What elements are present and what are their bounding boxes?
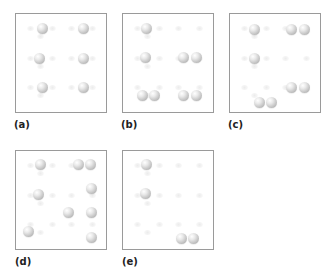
sphere-atom <box>176 233 187 244</box>
panel-b <box>122 13 214 113</box>
lattice-site-marker <box>37 93 44 98</box>
sphere-atom <box>254 97 265 108</box>
lattice-site-marker <box>49 193 56 198</box>
lattice-site-marker <box>134 26 141 31</box>
sphere-atom <box>141 159 152 170</box>
lattice-site-marker <box>196 26 203 31</box>
sphere-atom <box>86 207 97 218</box>
panel-label-e: (e) <box>122 256 138 268</box>
sphere-atom <box>191 90 202 101</box>
panel-label-c: (c) <box>228 119 243 131</box>
lattice-site-marker <box>68 56 75 61</box>
lattice-site-marker <box>196 85 203 90</box>
lattice-site-marker <box>241 56 248 61</box>
lattice-site-marker <box>241 26 248 31</box>
sphere-atom <box>299 24 310 35</box>
lattice-site-marker <box>134 163 141 168</box>
lattice-site-marker <box>27 56 34 61</box>
sphere-atom <box>63 207 74 218</box>
sphere-atom <box>140 52 151 63</box>
lattice-site-marker <box>156 193 163 198</box>
lattice-site-marker <box>37 230 44 235</box>
lattice-site-marker <box>282 56 289 61</box>
sphere-atom <box>37 23 48 34</box>
lattice-site-marker <box>68 26 75 31</box>
sphere-atom <box>249 24 260 35</box>
sphere-atom <box>149 90 160 101</box>
lattice-site-marker <box>89 26 96 31</box>
sphere-atom <box>37 82 48 93</box>
sphere-atom <box>78 82 89 93</box>
panel-label-b: (b) <box>121 119 137 131</box>
lattice-site-marker <box>49 56 56 61</box>
lattice-site-marker <box>37 171 44 176</box>
lattice-site-marker <box>89 56 96 61</box>
sphere-atom <box>249 53 260 64</box>
lattice-site-marker <box>263 85 270 90</box>
sphere-atom <box>286 82 297 93</box>
lattice-site-marker <box>49 26 56 31</box>
lattice-site-marker <box>144 230 151 235</box>
sphere-atom <box>266 97 277 108</box>
lattice-site-marker <box>175 163 182 168</box>
panel-c <box>229 13 321 113</box>
sphere-atom <box>78 23 89 34</box>
lattice-site-marker <box>144 201 151 206</box>
lattice-site-marker <box>27 26 34 31</box>
lattice-site-marker <box>175 85 182 90</box>
lattice-site-marker <box>156 222 163 227</box>
sphere-atom <box>188 233 199 244</box>
lattice-site-marker <box>144 34 151 39</box>
sphere-atom <box>141 23 152 34</box>
lattice-site-marker <box>175 26 182 31</box>
sphere-atom <box>191 52 202 63</box>
sphere-atom <box>178 90 189 101</box>
panel-label-a: (a) <box>14 119 30 131</box>
lattice-site-marker <box>37 34 44 39</box>
sphere-atom <box>178 52 189 63</box>
lattice-site-marker <box>49 85 56 90</box>
lattice-site-marker <box>134 85 141 90</box>
lattice-site-marker <box>49 222 56 227</box>
lattice-site-marker <box>37 201 44 206</box>
lattice-site-marker <box>89 222 96 227</box>
sphere-atom <box>86 183 97 194</box>
lattice-site-marker <box>156 56 163 61</box>
lattice-site-marker <box>27 85 34 90</box>
lattice-site-marker <box>196 193 203 198</box>
lattice-site-marker <box>49 163 56 168</box>
lattice-site-marker <box>241 85 248 90</box>
lattice-site-marker <box>68 222 75 227</box>
sphere-atom <box>23 226 34 237</box>
lattice-site-marker <box>89 85 96 90</box>
sphere-atom <box>73 159 84 170</box>
sphere-atom <box>137 90 148 101</box>
lattice-site-marker <box>27 163 34 168</box>
panel-d <box>15 150 107 250</box>
sphere-atom <box>86 232 97 243</box>
sphere-atom <box>140 188 151 199</box>
sphere-atom <box>34 53 45 64</box>
lattice-site-marker <box>68 193 75 198</box>
panel-label-d: (d) <box>15 256 31 268</box>
lattice-site-marker <box>196 222 203 227</box>
sphere-atom <box>33 189 44 200</box>
lattice-site-marker <box>156 26 163 31</box>
lattice-site-marker <box>263 26 270 31</box>
lattice-site-marker <box>303 56 310 61</box>
lattice-site-marker <box>144 64 151 69</box>
lattice-site-marker <box>175 193 182 198</box>
lattice-site-marker <box>175 222 182 227</box>
sphere-atom <box>286 24 297 35</box>
lattice-site-marker <box>156 85 163 90</box>
sphere-atom <box>78 53 89 64</box>
lattice-site-marker <box>251 64 258 69</box>
panel-e <box>122 150 214 250</box>
lattice-site-marker <box>68 85 75 90</box>
lattice-site-marker <box>263 56 270 61</box>
sphere-atom <box>85 159 96 170</box>
lattice-site-marker <box>156 163 163 168</box>
lattice-site-marker <box>134 222 141 227</box>
panel-a <box>15 13 107 113</box>
lattice-site-marker <box>196 163 203 168</box>
